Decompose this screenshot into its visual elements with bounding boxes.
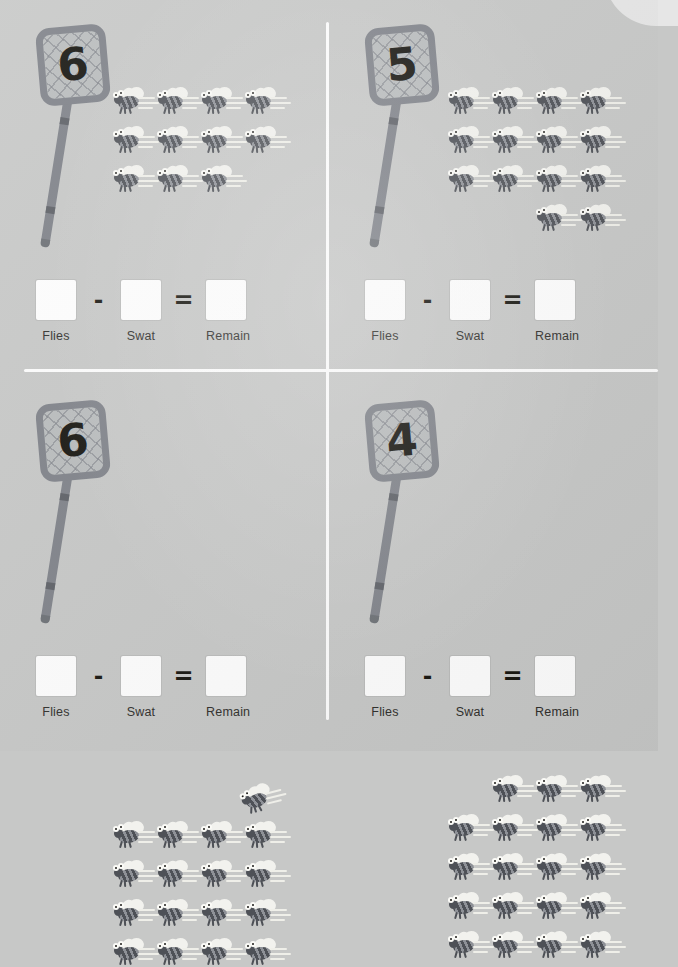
fly-eye bbox=[162, 863, 168, 869]
fly-leg bbox=[498, 873, 502, 880]
fly-leg bbox=[459, 952, 461, 958]
fly-leg bbox=[498, 951, 502, 958]
fly-leg bbox=[257, 805, 262, 812]
fly-leg bbox=[586, 795, 590, 802]
fly-leg bbox=[168, 842, 170, 848]
fly-icon bbox=[535, 854, 569, 882]
fly-icon bbox=[491, 893, 525, 921]
fly-eye bbox=[118, 824, 124, 830]
fly-leg bbox=[542, 951, 546, 958]
fly-icon bbox=[447, 854, 481, 882]
fly-eye bbox=[162, 824, 168, 830]
fly-leg bbox=[207, 841, 211, 848]
fly-eye bbox=[541, 934, 547, 940]
fly-leg bbox=[547, 952, 549, 958]
fly-leg bbox=[591, 913, 593, 919]
fly-eye bbox=[250, 941, 256, 947]
fly-leg bbox=[207, 880, 211, 887]
fly-leg bbox=[251, 880, 255, 887]
fly-leg bbox=[119, 919, 123, 926]
fly-eye bbox=[497, 934, 503, 940]
fly-icon bbox=[112, 861, 146, 889]
fly-motion-lines bbox=[605, 785, 627, 797]
fly-icon bbox=[535, 776, 569, 804]
fly-icon bbox=[447, 815, 481, 843]
fly-leg bbox=[212, 959, 214, 965]
fly-leg bbox=[454, 912, 458, 919]
fly-eye bbox=[206, 902, 212, 908]
fly-eye bbox=[250, 824, 256, 830]
fly-eye bbox=[118, 863, 124, 869]
fly-leg bbox=[163, 919, 167, 926]
fly-icon bbox=[447, 893, 481, 921]
fly-icon bbox=[491, 815, 525, 843]
fly-icon bbox=[535, 932, 569, 960]
fly-leg bbox=[498, 834, 502, 841]
fly-leg bbox=[586, 834, 590, 841]
fly-eye bbox=[585, 778, 591, 784]
fly-icon bbox=[579, 854, 613, 882]
fly-eye bbox=[541, 817, 547, 823]
fly-eye bbox=[541, 895, 547, 901]
fly-leg bbox=[503, 952, 505, 958]
fly-leg bbox=[586, 912, 590, 919]
fly-motion-lines bbox=[605, 941, 627, 953]
fly-icon bbox=[200, 939, 234, 967]
fly-leg bbox=[251, 919, 255, 926]
fly-leg bbox=[256, 842, 258, 848]
fly-icon bbox=[237, 782, 277, 817]
fly-leg bbox=[124, 959, 126, 965]
fly-leg bbox=[591, 874, 593, 880]
fly-leg bbox=[251, 958, 255, 965]
fly-leg bbox=[459, 835, 461, 841]
fly-leg bbox=[212, 920, 214, 926]
fly-eye bbox=[585, 817, 591, 823]
fly-icon bbox=[200, 900, 234, 928]
fly-eye bbox=[497, 817, 503, 823]
fly-eye bbox=[162, 941, 168, 947]
fly-leg bbox=[454, 873, 458, 880]
fly-leg bbox=[124, 920, 126, 926]
fly-icon bbox=[244, 861, 278, 889]
fly-leg bbox=[163, 880, 167, 887]
fly-leg bbox=[119, 958, 123, 965]
fly-motion-lines bbox=[270, 909, 292, 921]
fly-eye bbox=[118, 902, 124, 908]
fly-motion-lines bbox=[605, 824, 627, 836]
fly-leg bbox=[207, 958, 211, 965]
fly-icon bbox=[579, 932, 613, 960]
fly-motion-lines bbox=[605, 902, 627, 914]
fly-leg bbox=[498, 795, 502, 802]
fly-eye bbox=[497, 856, 503, 862]
fly-leg bbox=[542, 834, 546, 841]
fly-icon bbox=[491, 776, 525, 804]
fly-motion-lines bbox=[270, 831, 292, 843]
fly-icon bbox=[579, 776, 613, 804]
fly-eye bbox=[250, 902, 256, 908]
fly-eye bbox=[541, 856, 547, 862]
fly-icon bbox=[112, 939, 146, 967]
fly-leg bbox=[459, 874, 461, 880]
fly-leg bbox=[454, 951, 458, 958]
fly-leg bbox=[503, 874, 505, 880]
fly-icon bbox=[200, 822, 234, 850]
fly-leg bbox=[547, 913, 549, 919]
fly-leg bbox=[498, 912, 502, 919]
fly-leg bbox=[163, 958, 167, 965]
fly-leg bbox=[163, 841, 167, 848]
fly-leg bbox=[168, 959, 170, 965]
fly-icon bbox=[156, 939, 190, 967]
fly-eye bbox=[453, 817, 459, 823]
fly-icon bbox=[244, 900, 278, 928]
fly-leg bbox=[547, 874, 549, 880]
fly-icon bbox=[156, 822, 190, 850]
fly-icon bbox=[112, 822, 146, 850]
fly-leg bbox=[591, 835, 593, 841]
fly-eye bbox=[585, 934, 591, 940]
fly-leg bbox=[212, 842, 214, 848]
fly-icon bbox=[535, 815, 569, 843]
fly-eye bbox=[206, 824, 212, 830]
fly-icon bbox=[156, 861, 190, 889]
fly-icon bbox=[579, 893, 613, 921]
fly-leg bbox=[207, 919, 211, 926]
